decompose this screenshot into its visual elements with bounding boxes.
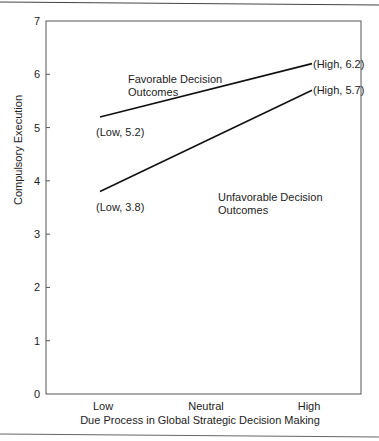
data-label-low: (Low, 5.2)	[96, 126, 144, 138]
y-tick-label: 6	[34, 68, 40, 80]
x-tick-label: High	[298, 400, 321, 412]
y-tick-label: 3	[34, 228, 40, 240]
y-tick-label: 2	[34, 281, 40, 293]
x-tick-label: Low	[93, 400, 113, 412]
x-axis-label: Due Process in Global Strategic Decision…	[80, 414, 320, 426]
top-rule	[0, 2, 379, 5]
y-tick-label: 7	[34, 15, 40, 27]
y-axis: 01234567	[34, 15, 50, 400]
data-label-high: (High, 6.2)	[313, 58, 364, 70]
y-tick-label: 4	[34, 175, 40, 187]
series-group: (Low, 5.2)(High, 6.2)Favorable DecisionO…	[96, 58, 364, 216]
y-tick-label: 5	[34, 122, 40, 134]
chart: 01234567 LowNeutralHigh Compulsory Execu…	[0, 0, 379, 441]
series-line	[100, 90, 312, 191]
y-tick-label: 0	[34, 388, 40, 400]
bottom-rule	[0, 434, 379, 437]
series-annotation: Unfavorable Decision	[218, 191, 323, 203]
x-axis: LowNeutralHigh	[93, 400, 320, 412]
series-annotation: Outcomes	[128, 86, 179, 98]
series-favorable: (Low, 5.2)(High, 6.2)Favorable DecisionO…	[96, 58, 364, 138]
data-label-high: (High, 5.7)	[313, 84, 364, 96]
series-annotation: Favorable Decision	[128, 73, 222, 85]
y-axis-label: Compulsory Execution	[12, 95, 24, 205]
series-unfavorable: (Low, 3.8)(High, 5.7)Unfavorable Decisio…	[96, 84, 364, 216]
y-tick-label: 1	[34, 335, 40, 347]
series-annotation: Outcomes	[218, 204, 269, 216]
x-tick-label: Neutral	[188, 400, 223, 412]
data-label-low: (Low, 3.8)	[96, 201, 144, 213]
